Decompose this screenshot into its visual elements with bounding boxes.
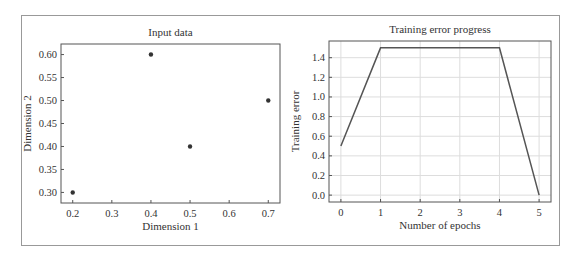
x-tick-label: 0.6 [223,208,236,219]
x-tick-label: 3 [457,207,462,218]
x-axis-label: Dimension 1 [142,220,199,232]
line-chart-training-error: 0123450.00.20.40.60.81.01.21.4Training e… [289,23,551,231]
x-tick-label: 0.5 [183,208,196,219]
y-tick-label: 0.45 [39,118,57,129]
x-tick-label: 0.7 [262,208,275,219]
axes-frame [61,44,280,203]
data-line [341,48,539,195]
y-tick-label: 1.2 [312,72,325,83]
x-axis-label: Number of epochs [399,219,480,231]
axes-frame [329,41,551,202]
x-tick-label: 2 [418,207,423,218]
y-axis-label: Training error [289,90,301,152]
scatter-chart-input-data: 0.20.30.40.50.60.70.300.350.400.450.500.… [21,26,280,232]
y-tick-label: 0.60 [39,49,57,60]
data-point [266,98,270,102]
data-point [188,144,192,148]
y-tick-label: 0.8 [312,111,325,122]
x-tick-label: 0 [338,207,343,218]
y-tick-label: 0.2 [312,170,325,181]
x-tick-label: 1 [378,207,383,218]
y-tick-label: 0.55 [39,72,57,83]
x-tick-label: 0.4 [144,208,158,219]
chart-title: Input data [148,26,192,38]
y-tick-label: 1.0 [312,91,325,102]
y-tick-label: 0.50 [39,95,57,106]
chart-title: Training error progress [389,23,491,35]
x-tick-label: 4 [497,207,503,218]
y-tick-label: 0.4 [312,150,326,161]
figure: 0.20.30.40.50.60.70.300.350.400.450.500.… [0,0,578,262]
data-point [71,190,75,194]
data-point [149,52,153,56]
x-tick-label: 5 [536,207,541,218]
x-tick-label: 0.3 [105,208,118,219]
y-tick-label: 1.4 [312,52,326,63]
y-tick-label: 0.35 [39,164,57,175]
y-tick-label: 0.40 [39,141,57,152]
x-tick-label: 0.2 [66,208,79,219]
y-tick-label: 0.30 [39,187,57,198]
y-axis-label: Dimension 2 [21,95,33,152]
y-tick-label: 0.6 [312,131,325,142]
y-tick-label: 0.0 [312,190,325,201]
